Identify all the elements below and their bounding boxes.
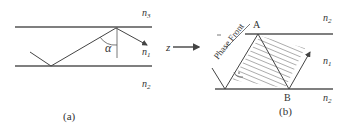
z-label: z [165, 41, 171, 53]
label-n1: n1 [323, 55, 332, 68]
right-angle-dot [238, 72, 240, 74]
panel-b: Phase Front A B n2 n1 n2 (b) [200, 5, 333, 118]
label-n3: n3 [142, 7, 151, 20]
point-b: B [284, 92, 291, 103]
panel-a: α n3 n1 n2 (a) [15, 7, 152, 123]
caption-a: (a) [63, 110, 76, 123]
label-n2-bottom: n2 [323, 92, 332, 105]
label-n2: n2 [142, 78, 151, 91]
label-n1: n1 [142, 46, 151, 59]
point-a: A [253, 19, 261, 30]
label-n2-top: n2 [323, 12, 332, 25]
ray-path [30, 28, 147, 66]
waveguide-diagram: α n3 n1 n2 (a) z [0, 0, 343, 128]
phase-front-label: Phase Front [212, 21, 247, 61]
z-axis: z [165, 41, 199, 53]
angle-alpha: α [105, 41, 112, 55]
caption-b: (b) [279, 105, 292, 118]
